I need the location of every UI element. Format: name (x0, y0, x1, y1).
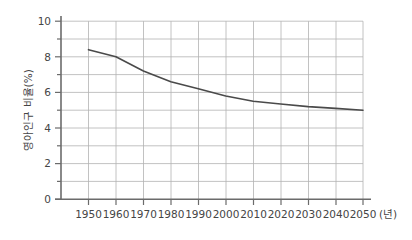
x-axis-unit-label: (년) (379, 208, 397, 220)
x-axis-tick-labels: 1950 1960 1970 1980 1990 2000 2010 2020 … (75, 208, 397, 220)
y-tick-label: 6 (44, 86, 51, 98)
y-tick-label: 0 (44, 193, 51, 205)
chart-page: 10 8 6 4 2 0 1950 1960 1970 1980 1990 20… (0, 0, 412, 240)
x-tick-label: 1990 (185, 208, 212, 220)
x-tick-label: 2020 (268, 208, 295, 220)
y-axis-title: 영아인구 비율(%) (22, 69, 34, 151)
x-tick-label: 2030 (295, 208, 322, 220)
y-tick-label: 2 (44, 157, 51, 169)
x-tick-label: 1950 (75, 208, 102, 220)
x-tick-label: 2040 (323, 208, 350, 220)
y-tick-label: 10 (38, 15, 51, 27)
y-axis-tick-labels: 10 8 6 4 2 0 (38, 15, 52, 205)
x-tick-label: 1960 (103, 208, 130, 220)
y-tick-label: 8 (44, 51, 51, 63)
y-tick-label: 4 (44, 122, 51, 134)
x-tick-label: 2000 (213, 208, 240, 220)
x-tick-label: 1980 (158, 208, 185, 220)
grid-lines-horizontal (61, 21, 363, 181)
x-axis-ticks (89, 199, 364, 205)
x-tick-label: 2050 (350, 208, 377, 220)
x-tick-label: 1970 (130, 208, 157, 220)
x-tick-label: 2010 (240, 208, 267, 220)
y-axis-ticks (55, 21, 61, 199)
line-chart: 10 8 6 4 2 0 1950 1960 1970 1980 1990 20… (0, 0, 412, 240)
